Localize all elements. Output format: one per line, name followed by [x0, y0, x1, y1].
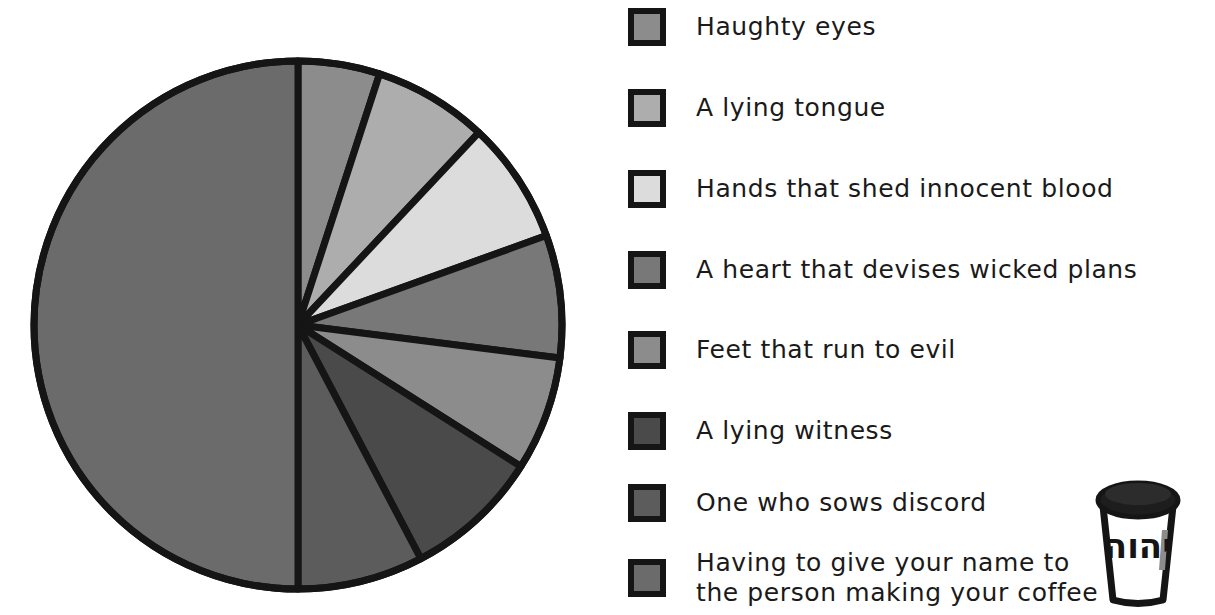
legend-item-hands-that-shed-innocent-blood[interactable]: Hands that shed innocent blood — [628, 170, 1114, 208]
legend-item-label: Hands that shed innocent blood — [696, 174, 1114, 204]
coffee-cup-icon: יהוה — [1083, 478, 1193, 610]
legend-swatch-icon — [628, 484, 666, 522]
legend-swatch-icon — [628, 331, 666, 369]
legend-item-label: Haughty eyes — [696, 12, 876, 42]
legend-item-a-lying-witness[interactable]: A lying witness — [628, 412, 893, 450]
legend-swatch-icon — [628, 412, 666, 450]
legend-item-label: A lying tongue — [696, 93, 886, 123]
legend-swatch-icon — [628, 251, 666, 289]
legend-swatch-icon — [628, 8, 666, 46]
legend-item-having-to-give-your-name[interactable]: Having to give your name to the person m… — [628, 548, 1098, 608]
pie-chart-svg — [28, 55, 568, 595]
legend-item-a-heart-that-devises-wicked-plans[interactable]: A heart that devises wicked plans — [628, 251, 1137, 289]
cup-hebrew-text: יהוה — [1104, 526, 1172, 566]
legend-item-haughty-eyes[interactable]: Haughty eyes — [628, 8, 876, 46]
legend-item-label: Feet that run to evil — [696, 335, 956, 365]
pie-slice[interactable] — [34, 61, 298, 589]
coffee-cup-svg: יהוה — [1083, 478, 1193, 610]
pie-chart — [28, 55, 568, 595]
legend-swatch-icon — [628, 89, 666, 127]
legend-item-label: Having to give your name to the person m… — [696, 548, 1098, 608]
legend-item-label: A lying witness — [696, 416, 893, 446]
legend-item-one-who-sows-discord[interactable]: One who sows discord — [628, 484, 987, 522]
legend-item-label: One who sows discord — [696, 488, 987, 518]
legend-swatch-icon — [628, 170, 666, 208]
legend-swatch-icon — [628, 559, 666, 597]
legend-item-a-lying-tongue[interactable]: A lying tongue — [628, 89, 886, 127]
legend-item-feet-that-run-to-evil[interactable]: Feet that run to evil — [628, 331, 956, 369]
cup-lid-top — [1105, 483, 1171, 505]
legend-item-label: A heart that devises wicked plans — [696, 255, 1137, 285]
chart-page: Haughty eyes A lying tongue Hands that s… — [0, 0, 1215, 615]
